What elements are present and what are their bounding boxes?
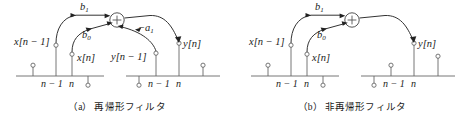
panel-nonrecursive-filter: b1 b0 x[n − 1] x[n] y[n] n − 1 n n − 1 n…: [235, 0, 469, 121]
input-tick-n: n: [69, 79, 74, 89]
output-tick-n: n: [176, 79, 181, 89]
panel-recursive-filter: b1 b0 −a1 x[n − 1] x[n] y[n − 1] y[n] n …: [0, 0, 234, 121]
input-tick-n-minus-1: n − 1: [276, 79, 298, 89]
caption-panel-b: （b）非再帰形フィルタ: [235, 99, 469, 113]
signal-y-n: y[n]: [418, 39, 436, 50]
gain-b0: b0: [317, 30, 326, 42]
arrowhead-b1-node: [105, 13, 111, 18]
signal-y-n: y[n]: [183, 39, 201, 50]
panel-a-drawing: [0, 0, 234, 100]
signal-x-n-minus-1: x[n − 1]: [14, 37, 50, 48]
path-output: [360, 15, 417, 43]
signal-y-n-minus-1: y[n − 1]: [111, 52, 147, 63]
output-tick-n: n: [411, 79, 416, 89]
caption-tag-a: （a）: [68, 102, 92, 112]
arrowhead-b1: [306, 13, 312, 18]
output-tick-n-minus-1: n − 1: [383, 79, 405, 89]
signal-x-n: x[n]: [312, 53, 330, 64]
gain-b1: b1: [80, 2, 89, 14]
gain-b1: b1: [315, 2, 324, 14]
output-tick-n-minus-1: n − 1: [148, 79, 170, 89]
figure-recursive-nonrecursive-filters: b1 b0 −a1 x[n − 1] x[n] y[n − 1] y[n] n …: [0, 0, 469, 121]
panel-b-drawing: [235, 0, 469, 100]
input-tick-n: n: [304, 79, 309, 89]
caption-text-a: 再帰形フィルタ: [94, 102, 165, 112]
summing-junction: [345, 13, 359, 27]
caption-text-b: 非再帰形フィルタ: [325, 102, 407, 112]
signal-x-n: x[n]: [77, 53, 95, 64]
gain-minus-a1: −a1: [138, 23, 154, 35]
gain-b0: b0: [82, 30, 91, 42]
path-b0: [72, 21, 113, 52]
signal-x-n-minus-1: x[n − 1]: [249, 37, 285, 48]
caption-panel-a: （a）再帰形フィルタ: [0, 99, 234, 113]
caption-tag-b: （b）: [298, 102, 323, 112]
path-b0: [307, 21, 348, 52]
input-tick-n-minus-1: n − 1: [41, 79, 63, 89]
arrowhead-b1: [71, 13, 77, 18]
arrowhead-b1-node: [340, 13, 346, 18]
